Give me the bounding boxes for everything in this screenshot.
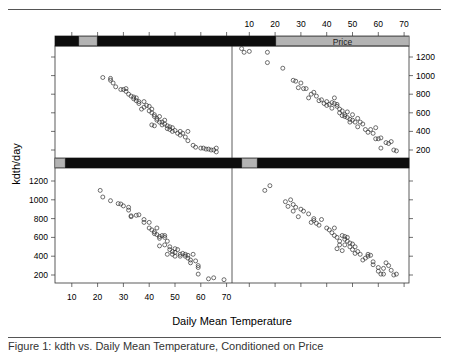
data-point	[263, 188, 267, 192]
data-point	[114, 85, 118, 89]
y-tick-label: 200	[416, 145, 430, 155]
x-axis-label: Daily Mean Temperature	[172, 315, 292, 327]
data-point	[317, 99, 321, 103]
data-point	[163, 243, 167, 247]
x-tick-label: 40	[144, 292, 154, 302]
y-tick-label: 600	[416, 108, 430, 118]
bottom-rule	[8, 337, 441, 338]
x-tick-label: 60	[196, 292, 206, 302]
data-point	[137, 213, 141, 217]
data-point	[394, 272, 398, 276]
data-point	[289, 198, 293, 202]
data-point	[356, 125, 360, 129]
y-tick-label: 400	[34, 251, 48, 261]
y-tick-label: 1200	[29, 176, 48, 186]
data-point	[155, 226, 159, 230]
data-point	[320, 218, 324, 222]
data-point	[332, 96, 336, 100]
data-point	[160, 123, 164, 127]
panel-bottom-left	[98, 188, 226, 281]
y-tick-label: 1000	[416, 71, 435, 81]
y-tick-label: 800	[416, 89, 430, 99]
x-tick-label: 10	[245, 19, 255, 29]
data-point	[247, 49, 251, 53]
data-point	[98, 188, 102, 192]
data-point	[340, 114, 344, 118]
data-point	[265, 50, 269, 54]
data-point	[101, 195, 105, 199]
data-point	[332, 226, 336, 230]
data-point	[369, 253, 373, 257]
x-tick-label: 10	[67, 292, 77, 302]
data-point	[150, 123, 154, 127]
data-point	[147, 220, 151, 224]
x-tick-label: 30	[296, 19, 306, 29]
strip-top-left	[55, 36, 232, 46]
data-point	[351, 113, 355, 117]
data-point	[142, 220, 146, 224]
data-point	[186, 139, 190, 143]
data-point	[291, 209, 295, 213]
data-point	[207, 147, 211, 151]
data-point	[371, 263, 375, 267]
y-tick-label: 600	[34, 232, 48, 242]
data-point	[240, 47, 244, 51]
x-tick-label: 50	[170, 292, 180, 302]
panel-top-right	[240, 47, 399, 153]
data-point	[392, 148, 396, 152]
data-point	[387, 264, 391, 268]
data-point	[389, 268, 393, 272]
data-point	[345, 110, 349, 114]
data-point	[376, 137, 380, 141]
data-point	[109, 199, 113, 203]
data-point	[176, 248, 180, 252]
data-point	[384, 141, 388, 145]
data-point	[296, 86, 300, 90]
strip-bottom-left	[55, 158, 232, 168]
data-point	[304, 87, 308, 91]
data-point	[343, 243, 347, 247]
data-point	[201, 146, 205, 150]
data-point	[320, 98, 324, 102]
data-point	[369, 128, 373, 132]
data-point	[291, 78, 295, 82]
strip-top-right: Price	[232, 36, 409, 47]
y-tick-label: 200	[34, 270, 48, 280]
data-point	[152, 124, 156, 128]
data-point	[330, 106, 334, 110]
data-point	[356, 116, 360, 120]
data-point	[296, 215, 300, 219]
panel-top-left	[101, 76, 219, 154]
data-point	[142, 100, 146, 104]
data-point	[191, 252, 195, 256]
data-point	[382, 266, 386, 270]
data-point	[340, 249, 344, 253]
data-point	[294, 205, 298, 209]
data-point	[314, 94, 318, 98]
data-point	[111, 81, 115, 85]
data-point	[194, 259, 198, 263]
data-point	[281, 66, 285, 70]
figure-caption: Figure 1: kdth vs. Daily Mean Temperatur…	[8, 340, 323, 352]
x-tick-label: 20	[270, 19, 280, 29]
data-point	[207, 277, 211, 281]
x-tick-label: 50	[348, 19, 358, 29]
strip-bottom-right	[232, 158, 409, 168]
data-point	[268, 184, 272, 188]
data-point	[242, 50, 246, 54]
data-point	[379, 136, 383, 140]
data-point	[307, 212, 311, 216]
data-point	[353, 245, 357, 249]
data-point	[186, 129, 190, 133]
data-point	[335, 247, 339, 251]
y-tick-label: 1200	[416, 52, 435, 62]
data-point	[127, 208, 131, 212]
data-point	[392, 273, 396, 277]
lattice-scatterplot: Price 1010202030304040505060607070200200…	[0, 0, 449, 340]
panel-bottom-right	[263, 184, 399, 277]
data-point	[212, 276, 216, 280]
data-point	[299, 81, 303, 85]
x-tick-label: 70	[399, 19, 409, 29]
y-tick-label: 400	[416, 126, 430, 136]
x-tick-label: 30	[119, 292, 129, 302]
